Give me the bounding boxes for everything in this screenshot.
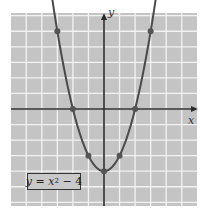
data-point — [85, 153, 91, 159]
equation-label: y = x 2 − 4 — [27, 173, 81, 190]
data-point — [117, 153, 123, 159]
data-point — [101, 168, 107, 174]
equation-constant: − 4 — [59, 175, 82, 188]
data-point — [70, 106, 76, 112]
data-point — [148, 28, 154, 34]
data-point — [132, 106, 138, 112]
equation-equals: = — [32, 175, 48, 188]
x-axis-label: x — [188, 114, 194, 127]
y-axis-label: y — [108, 6, 114, 19]
equation-exponent: 2 — [54, 177, 58, 185]
data-point — [54, 28, 60, 34]
